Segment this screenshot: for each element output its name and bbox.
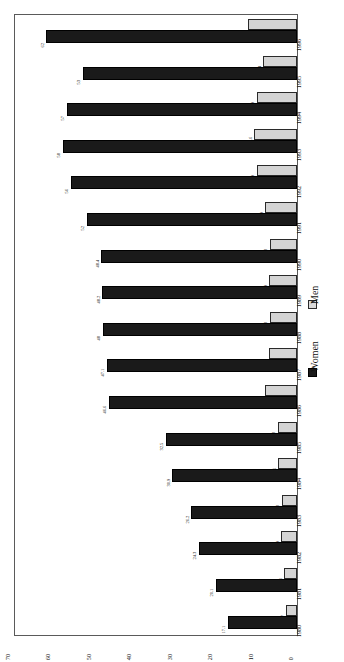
bar-women — [83, 67, 297, 80]
bar-women — [46, 30, 297, 43]
bar-group: 10.658 — [0, 124, 344, 161]
bar-group: 6.948.2 — [0, 270, 344, 307]
year-tick-label: 1985 — [296, 442, 302, 454]
bar-group: 9.957 — [0, 87, 344, 124]
bar-value-label-women: 32.5 — [160, 442, 164, 450]
bar-group: 4.630.9 — [0, 453, 344, 490]
bar-women — [71, 176, 297, 189]
bar-value-label-women: 57 — [61, 116, 65, 120]
year-tick-label: 1982 — [296, 551, 302, 563]
bar-group: 6.848.4 — [0, 234, 344, 271]
bar-men — [265, 385, 297, 396]
bar-women — [102, 286, 297, 299]
bar-group: 3.826.2 — [0, 490, 344, 527]
bar-group: 8.453 — [0, 51, 344, 88]
bar-value-label-women: 20.1 — [210, 589, 214, 597]
axis-tick-label: 30 — [167, 654, 173, 660]
bar-group: 2.717.1 — [0, 599, 344, 636]
bar-group: 3.120.1 — [0, 563, 344, 600]
bar-men — [257, 92, 297, 103]
bar-women — [63, 140, 297, 153]
bar-men — [248, 19, 297, 30]
axis-tick-label: 60 — [45, 654, 51, 660]
bar-group: 1262 — [0, 14, 344, 51]
bar-value-label-women: 26.2 — [185, 515, 189, 523]
year-tick-label: 1981 — [296, 588, 302, 600]
year-tick-label: 1991 — [296, 222, 302, 234]
bar-women — [199, 542, 297, 555]
bar-value-label-women: 47.1 — [101, 369, 105, 377]
year-tick-label: 1996 — [296, 39, 302, 51]
bar-men — [278, 422, 297, 433]
bar-women — [172, 469, 297, 482]
bar-women — [67, 103, 297, 116]
bar-men — [257, 165, 297, 176]
year-tick-label: 1986 — [296, 405, 302, 417]
bar-men — [269, 275, 297, 286]
bar-women — [103, 323, 297, 336]
year-tick-label: 1993 — [296, 149, 302, 161]
year-tick-label: 1990 — [296, 259, 302, 271]
year-tick-label: 1980 — [296, 625, 302, 637]
bar-women — [216, 579, 297, 592]
bar-group: 3.924.3 — [0, 526, 344, 563]
year-tick-label: 1987 — [296, 368, 302, 380]
bar-men — [281, 531, 297, 542]
year-tick-label: 1983 — [296, 515, 302, 527]
bar-men — [270, 312, 297, 323]
bar-value-label-women: 53 — [77, 80, 81, 84]
bar-group: 846.6 — [0, 380, 344, 417]
axis-tick-label: 0 — [288, 657, 294, 660]
bar-men — [284, 568, 297, 579]
year-tick-label: 1994 — [296, 112, 302, 124]
bar-group: 747.1 — [0, 343, 344, 380]
bar-women — [109, 396, 297, 409]
axis-tick-label: 10 — [247, 654, 253, 660]
bar-men — [286, 605, 297, 616]
legend-label-men: Men — [310, 286, 320, 304]
year-tick-label: 1995 — [296, 76, 302, 88]
year-tick-label: 1989 — [296, 295, 302, 307]
bar-value-label-women: 48.2 — [96, 296, 100, 304]
bar-women — [191, 506, 297, 519]
year-tick-label: 1984 — [296, 478, 302, 490]
bar-women — [101, 250, 297, 263]
bar-value-label-women: 48 — [97, 336, 101, 340]
bar-men — [263, 56, 297, 67]
axis-tick-label: 50 — [86, 654, 92, 660]
bar-men — [270, 239, 297, 250]
bar-men — [265, 202, 297, 213]
bar-group: 4.832.5 — [0, 416, 344, 453]
bar-value-label-women: 24.3 — [193, 552, 197, 560]
bar-group: 6.848 — [0, 307, 344, 344]
bar-value-label-women: 58 — [57, 153, 61, 157]
axis-tick-label: 20 — [207, 654, 213, 660]
bar-women — [107, 359, 297, 372]
bar-value-label-women: 30.9 — [166, 479, 170, 487]
bar-chart: 12628.4539.95710.6589.9567.9526.848.46.9… — [0, 0, 344, 662]
bar-group: 9.956 — [0, 160, 344, 197]
axis-tick-label: 40 — [126, 654, 132, 660]
bar-men — [282, 495, 297, 506]
bar-men — [278, 458, 297, 469]
bar-value-label-women: 17.1 — [222, 625, 226, 633]
bar-women — [166, 433, 297, 446]
bar-value-label-women: 56 — [65, 189, 69, 193]
bar-value-label-women: 48.4 — [95, 259, 99, 267]
bar-value-label-women: 62 — [40, 43, 44, 47]
bar-men — [269, 348, 297, 359]
bar-women — [87, 213, 297, 226]
bar-men — [254, 129, 297, 140]
axis-tick-label: 70 — [5, 654, 11, 660]
year-tick-label: 1992 — [296, 185, 302, 197]
legend-label-women: Women — [310, 341, 320, 372]
bar-value-label-women: 46.6 — [103, 406, 107, 414]
bar-group: 7.952 — [0, 197, 344, 234]
bar-women — [228, 616, 297, 629]
year-tick-label: 1988 — [296, 332, 302, 344]
chart-legend: WomenMen — [306, 258, 344, 408]
bar-value-label-women: 52 — [81, 226, 85, 230]
